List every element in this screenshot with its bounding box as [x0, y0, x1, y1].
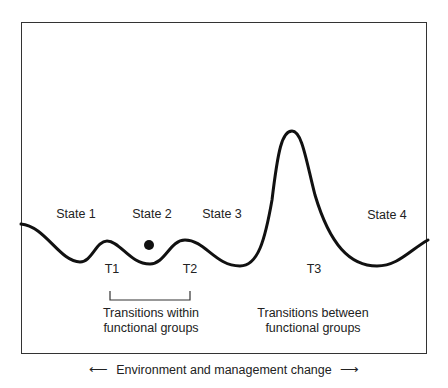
state-3-label: State 3 — [202, 207, 242, 221]
between-groups-line1: Transitions between — [257, 306, 368, 320]
between-groups-line2: functional groups — [265, 321, 360, 335]
state-1-label: State 1 — [56, 207, 96, 221]
t2-label: T2 — [183, 262, 198, 276]
stability-landscape-curve — [0, 0, 448, 388]
within-group-bracket — [110, 291, 190, 300]
axis-caption-row: ⟵ Environment and management change ⟶ — [0, 362, 448, 377]
ball-icon — [144, 240, 154, 250]
arrow-left-icon: ⟵ — [89, 362, 108, 377]
axis-caption: Environment and management change — [116, 363, 331, 377]
within-groups-line2: functional groups — [103, 321, 198, 335]
within-groups-line1: Transitions within — [103, 306, 199, 320]
state-2-label: State 2 — [132, 207, 172, 221]
state-4-label: State 4 — [367, 208, 407, 222]
arrow-right-icon: ⟶ — [340, 362, 359, 377]
landscape-line — [21, 131, 428, 266]
t3-label: T3 — [307, 262, 322, 276]
t1-label: T1 — [105, 262, 120, 276]
